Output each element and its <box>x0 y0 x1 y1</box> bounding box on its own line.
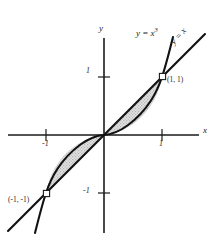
x-axis-label: x <box>203 126 207 135</box>
marker-point-neg1-neg1 <box>43 190 49 196</box>
curve-label-cubic-base: y = x <box>136 28 155 38</box>
x-tick-label-pos1: 1 <box>159 140 163 148</box>
plot-svg <box>0 0 216 252</box>
point-label-neg1-neg1: (-1, -1) <box>8 196 29 204</box>
x-tick-label-neg1: -1 <box>42 140 49 148</box>
y-axis-label: y <box>99 24 103 33</box>
y-tick-label-pos1: 1 <box>86 67 90 75</box>
figure-canvas: y = x3 y = x y x -1 1 1 -1 (1, 1) (-1, -… <box>0 0 216 252</box>
marker-point-1-1 <box>159 73 165 79</box>
point-label-1-1: (1, 1) <box>167 76 183 84</box>
curve-label-cubic-exponent: 3 <box>155 26 158 33</box>
curve-label-cubic: y = x3 <box>136 27 158 38</box>
y-tick-label-neg1: -1 <box>83 187 90 195</box>
curve-line-y-equals-x <box>8 34 205 231</box>
